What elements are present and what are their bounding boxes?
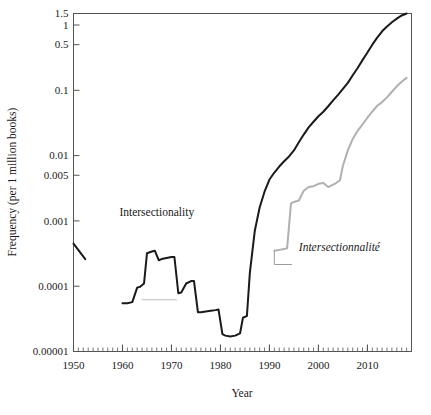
x-axis-minor-ticks	[74, 348, 412, 352]
data-series-layer	[74, 14, 407, 337]
x-tick-label-4: 1990	[258, 359, 281, 371]
x-tick-label-2: 1970	[160, 359, 183, 371]
x-tick-label-5: 2000	[307, 359, 330, 371]
series-annotations: IntersectionalityIntersectionnalité	[119, 206, 380, 253]
x-tick-label-6: 2010	[356, 359, 379, 371]
leader-line-0	[274, 251, 292, 265]
y-axis-tick-labels: 1.510.50.10.010.0050.0010.00010.00001	[33, 7, 69, 357]
annotation-leader-lines	[274, 251, 292, 265]
x-tick-label-3: 1980	[209, 359, 232, 371]
y-tick-label-5: 0.005	[44, 169, 69, 181]
x-tick-label-1: 1960	[111, 359, 134, 371]
series-line-0-0	[74, 244, 86, 260]
y-tick-label-4: 0.01	[49, 149, 68, 161]
series-line-1-0	[274, 78, 406, 251]
y-tick-label-1: 1	[63, 19, 69, 31]
x-axis-tick-labels: 1950196019701980199020002010	[63, 359, 379, 371]
series-annotation-0: Intersectionality	[119, 206, 194, 219]
y-axis-title: Frequency (per 1 million books)	[6, 107, 19, 256]
x-axis-title: Year	[231, 387, 252, 399]
series-annotation-1: Intersectionnalité	[298, 241, 381, 253]
y-axis-ticks	[74, 14, 80, 352]
series-line-0-1	[122, 14, 406, 337]
y-tick-label-0: 1.5	[55, 7, 69, 19]
y-tick-label-7: 0.0001	[38, 280, 68, 292]
y-tick-label-2: 0.5	[55, 38, 69, 50]
y-tick-label-8: 0.00001	[33, 345, 69, 357]
chart-canvas: 1.510.50.10.010.0050.0010.00010.00001 19…	[0, 0, 431, 415]
y-tick-label-6: 0.001	[44, 215, 69, 227]
x-tick-label-0: 1950	[63, 359, 86, 371]
frequency-over-time-chart: 1.510.50.10.010.0050.0010.00010.00001 19…	[0, 0, 431, 415]
y-tick-label-3: 0.1	[55, 84, 69, 96]
